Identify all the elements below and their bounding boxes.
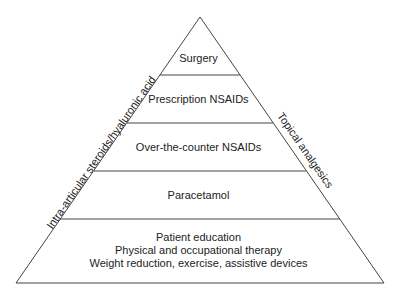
tier-otc-nsaids: Over-the-counter NSAIDs bbox=[0, 141, 397, 154]
tier-base-line-3: Weight reduction, exercise, assistive de… bbox=[0, 257, 397, 270]
tier-base-line-2: Physical and occupational therapy bbox=[0, 244, 397, 257]
tier-surgery: Surgery bbox=[0, 52, 397, 65]
tier-base-line-1: Patient education bbox=[0, 231, 397, 244]
tier-prescription-nsaids: Prescription NSAIDs bbox=[0, 93, 397, 106]
pyramid-diagram: Surgery Prescription NSAIDs Over-the-cou… bbox=[0, 0, 397, 296]
